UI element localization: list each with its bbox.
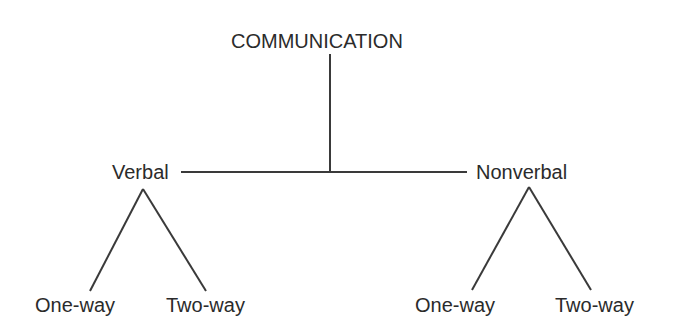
leaf-node-nonverbal-one-way: One-way: [415, 295, 495, 315]
nonverbal-right-leg-line: [529, 187, 591, 290]
leaf-node-verbal-two-way: Two-way: [166, 295, 245, 315]
verbal-left-leg-line: [90, 189, 143, 291]
leaf-node-nonverbal-two-way: Two-way: [555, 295, 634, 315]
verbal-right-leg-line: [143, 189, 206, 291]
leaf-node-verbal-one-way: One-way: [35, 295, 115, 315]
branch-node-verbal: Verbal: [112, 162, 169, 182]
branch-node-nonverbal: Nonverbal: [476, 162, 567, 182]
root-node-communication: COMMUNICATION: [231, 31, 403, 51]
nonverbal-left-leg-line: [472, 187, 529, 290]
